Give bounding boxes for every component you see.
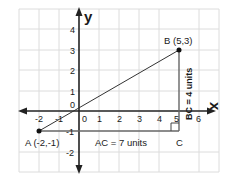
arrow-down-icon bbox=[76, 165, 83, 174]
arrow-up-icon bbox=[76, 7, 83, 16]
svg-text:-2: -2 bbox=[66, 148, 74, 158]
svg-text:4: 4 bbox=[70, 25, 75, 35]
svg-text:1: 1 bbox=[97, 114, 102, 124]
svg-text:-1: -1 bbox=[55, 114, 63, 124]
ac-length-label: AC = 7 units bbox=[95, 137, 147, 148]
point-a bbox=[37, 129, 42, 134]
svg-text:6: 6 bbox=[196, 114, 201, 124]
x-axis-label: x bbox=[207, 102, 224, 111]
right-angle-marker bbox=[171, 123, 179, 131]
y-axis-label: y bbox=[84, 8, 93, 25]
svg-text:3: 3 bbox=[137, 114, 142, 124]
point-a-label: A (-2,-1) bbox=[25, 137, 59, 148]
svg-text:2: 2 bbox=[70, 66, 75, 76]
svg-text:2: 2 bbox=[117, 114, 122, 124]
point-b-label: B (5,3) bbox=[164, 35, 193, 46]
svg-text:0: 0 bbox=[82, 114, 87, 124]
svg-text:3: 3 bbox=[70, 46, 75, 56]
svg-text:4: 4 bbox=[157, 114, 162, 124]
svg-text:5: 5 bbox=[174, 114, 179, 124]
svg-text:-1: -1 bbox=[66, 127, 74, 137]
coordinate-diagram: y x -2 -1 0 1 2 3 4 5 6 4 3 2 1 0 -1 -2 … bbox=[0, 0, 229, 181]
point-b bbox=[177, 48, 182, 53]
bc-length-label: BC = 4 units bbox=[184, 68, 194, 120]
svg-text:0: 0 bbox=[70, 100, 75, 110]
point-c-label: C bbox=[176, 137, 183, 148]
svg-text:-2: -2 bbox=[35, 114, 43, 124]
x-tick-labels: -2 -1 0 1 2 3 4 5 6 bbox=[35, 114, 201, 124]
svg-text:1: 1 bbox=[70, 87, 75, 97]
